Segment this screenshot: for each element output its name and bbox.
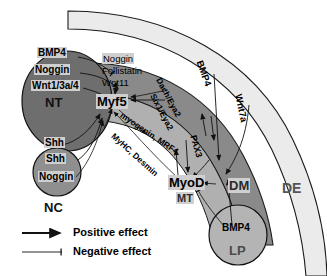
label-lp-bmp4: BMP4	[222, 222, 250, 233]
label-mt-wnt11: Wnt11	[102, 77, 129, 88]
label-nt-shh: Shh	[44, 137, 65, 148]
tissue-label-NT: NT	[45, 95, 62, 110]
tissue-label-LP: LP	[229, 243, 246, 258]
tissue-label-DM: DM	[228, 178, 250, 193]
legend-negative-label: Negative effect	[73, 245, 151, 257]
legend-positive-label: Positive effect	[73, 226, 148, 238]
figure-canvas: BMP4 Noggin Wnt1/3a/4 NT Shh Shh Noggin …	[0, 0, 327, 276]
label-mt-follistatin: Follistatin	[102, 65, 142, 76]
tissue-label-DE: DE	[282, 180, 301, 196]
gene-label-myf5: Myf5	[96, 94, 128, 109]
label-nt-wnt: Wnt1/3a/4	[31, 80, 80, 91]
label-nc-noggin: Noggin	[38, 171, 74, 182]
label-mt-noggin: Noggin	[102, 53, 134, 64]
tissue-label-NC: NC	[44, 200, 63, 215]
gene-label-myod: MyoD	[168, 175, 205, 190]
label-nt-bmp4: BMP4	[37, 47, 67, 58]
tissue-label-MT: MT	[176, 192, 194, 204]
label-nt-noggin: Noggin	[34, 64, 70, 75]
label-nc-shh: Shh	[45, 153, 66, 164]
